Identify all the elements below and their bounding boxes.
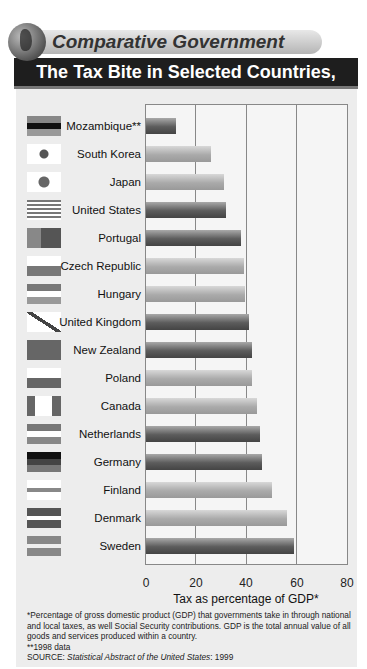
- sweden-flag-icon: [27, 536, 61, 556]
- bar: [146, 258, 244, 274]
- germany-flag-icon: [27, 452, 61, 472]
- mozambique-flag-icon: [27, 116, 61, 136]
- bar-row: Poland: [0, 364, 367, 392]
- bar-row: South Korea: [0, 140, 367, 168]
- bar: [146, 482, 272, 498]
- bar: [146, 370, 252, 386]
- hungary-flag-icon: [27, 284, 61, 304]
- country-label: Hungary: [98, 284, 141, 304]
- country-label: Netherlands: [79, 424, 141, 444]
- footnote-gdp: *Percentage of gross domestic product (G…: [27, 610, 352, 642]
- source-title: Statistical Abstract of the United State…: [67, 652, 210, 662]
- canada-flag-icon: [27, 396, 61, 416]
- country-label: Sweden: [99, 536, 141, 556]
- country-label: Mozambique**: [66, 116, 141, 136]
- x-tick: 60: [290, 576, 303, 590]
- x-tick: 80: [340, 576, 353, 590]
- bar-row: Finland: [0, 476, 367, 504]
- poland-flag-icon: [27, 368, 61, 388]
- bar: [146, 286, 245, 302]
- chart-title: The Tax Bite in Selected Countries, 1999: [14, 58, 358, 86]
- bar-row: Denmark: [0, 504, 367, 532]
- country-label: Portugal: [98, 228, 141, 248]
- country-label: Japan: [110, 172, 141, 192]
- section-kicker: Comparative Government: [52, 30, 284, 54]
- bar-row: United States: [0, 196, 367, 224]
- x-tick: 0: [143, 576, 150, 590]
- country-label: Canada: [101, 396, 141, 416]
- country-label: Poland: [105, 368, 141, 388]
- country-label: South Korea: [77, 144, 141, 164]
- country-label: New Zealand: [73, 340, 141, 360]
- united-kingdom-flag-icon: [27, 312, 61, 332]
- bar-row: Canada: [0, 392, 367, 420]
- bar: [146, 202, 226, 218]
- country-label: Denmark: [94, 508, 141, 528]
- bar-row: Japan: [0, 168, 367, 196]
- bar-row: Portugal: [0, 224, 367, 252]
- bar: [146, 230, 241, 246]
- bar: [146, 510, 287, 526]
- bar-row: Czech Republic: [0, 252, 367, 280]
- japan-flag-icon: [27, 172, 61, 192]
- bar: [146, 538, 294, 554]
- source-line: SOURCE: Statistical Abstract of the Unit…: [27, 652, 352, 663]
- bar: [146, 342, 252, 358]
- globe-icon: [8, 23, 46, 61]
- x-tick: 40: [239, 576, 252, 590]
- country-label: Germany: [94, 452, 141, 472]
- x-tick: 20: [189, 576, 202, 590]
- country-label: United Kingdom: [59, 312, 141, 332]
- country-label: Finland: [103, 480, 141, 500]
- bar-row: Sweden: [0, 532, 367, 560]
- bar-row: Hungary: [0, 280, 367, 308]
- bar-row: United Kingdom: [0, 308, 367, 336]
- bar-row: Mozambique**: [0, 112, 367, 140]
- bar-row: Netherlands: [0, 420, 367, 448]
- bar: [146, 146, 211, 162]
- country-label: Czech Republic: [60, 256, 141, 276]
- united-states-flag-icon: [27, 200, 61, 220]
- bar-row: New Zealand: [0, 336, 367, 364]
- bar: [146, 398, 257, 414]
- finland-flag-icon: [27, 480, 61, 500]
- bar-row: Germany: [0, 448, 367, 476]
- bar: [146, 454, 262, 470]
- new-zealand-flag-icon: [27, 340, 61, 360]
- czech-republic-flag-icon: [27, 256, 61, 276]
- x-axis-label: Tax as percentage of GDP*: [173, 592, 318, 606]
- denmark-flag-icon: [27, 508, 61, 528]
- bar: [146, 314, 249, 330]
- portugal-flag-icon: [27, 228, 61, 248]
- netherlands-flag-icon: [27, 424, 61, 444]
- bar: [146, 118, 176, 134]
- footnotes: *Percentage of gross domestic product (G…: [27, 610, 352, 663]
- country-label: United States: [72, 200, 141, 220]
- bar: [146, 174, 224, 190]
- footnote-1998: **1998 data: [27, 642, 352, 653]
- bar: [146, 426, 260, 442]
- south-korea-flag-icon: [27, 144, 61, 164]
